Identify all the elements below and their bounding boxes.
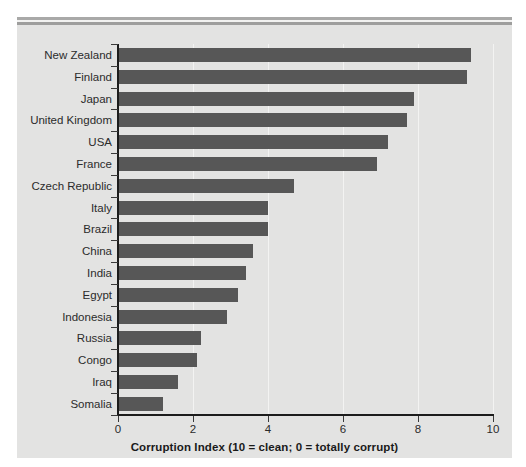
bar — [118, 310, 227, 324]
category-label: Japan — [0, 92, 112, 106]
x-axis-line — [117, 414, 494, 416]
y-axis-tick — [111, 284, 118, 285]
y-axis-tick — [111, 240, 118, 241]
bar — [118, 331, 201, 345]
x-axis-tick — [118, 416, 119, 422]
bar — [118, 353, 197, 367]
gridline — [493, 44, 494, 415]
y-axis-line — [117, 44, 119, 416]
x-axis-tick — [193, 416, 194, 422]
x-axis-tick-label: 0 — [98, 423, 138, 435]
x-axis-tick — [268, 416, 269, 422]
bar — [118, 92, 414, 106]
bar — [118, 375, 178, 389]
category-label: Somalia — [0, 397, 112, 411]
y-axis-tick — [111, 415, 118, 416]
bar — [118, 288, 238, 302]
category-labels: New ZealandFinlandJapanUnited KingdomUSA… — [0, 44, 112, 415]
y-axis-tick — [111, 327, 118, 328]
category-label: India — [0, 266, 112, 280]
x-axis-tick — [418, 416, 419, 422]
x-axis-tick — [493, 416, 494, 422]
category-label: Finland — [0, 70, 112, 84]
category-label: Czech Republic — [0, 179, 112, 193]
y-axis-tick — [111, 175, 118, 176]
bar — [118, 157, 377, 171]
category-label: Russia — [0, 331, 112, 345]
y-axis-tick — [111, 393, 118, 394]
category-label: Indonesia — [0, 310, 112, 324]
y-axis-tick — [111, 218, 118, 219]
x-axis-tick — [343, 416, 344, 422]
y-axis-tick — [111, 262, 118, 263]
category-label: Brazil — [0, 222, 112, 236]
category-label: Congo — [0, 353, 112, 367]
plot-area — [118, 44, 493, 415]
category-label: China — [0, 244, 112, 258]
bar — [118, 135, 388, 149]
x-axis-tick-label: 6 — [323, 423, 363, 435]
bar — [118, 70, 467, 84]
y-axis-tick — [111, 88, 118, 89]
y-axis-tick — [111, 371, 118, 372]
y-axis-tick — [111, 66, 118, 67]
decorative-rule-bottom — [17, 22, 512, 25]
bar — [118, 48, 471, 62]
corruption-index-chart-figure: New ZealandFinlandJapanUnited KingdomUSA… — [0, 0, 526, 467]
y-axis-tick — [111, 153, 118, 154]
category-label: USA — [0, 135, 112, 149]
x-axis-tick-label: 4 — [248, 423, 288, 435]
category-label: United Kingdom — [0, 113, 112, 127]
bar — [118, 201, 268, 215]
x-axis-title: Corruption Index (10 = clean; 0 = totall… — [17, 441, 512, 453]
x-axis-tick-label: 10 — [473, 423, 513, 435]
category-label: New Zealand — [0, 48, 112, 62]
category-label: France — [0, 157, 112, 171]
x-axis-tick-label: 2 — [173, 423, 213, 435]
x-axis-tick-label: 8 — [398, 423, 438, 435]
bar — [118, 397, 163, 411]
y-axis-tick — [111, 306, 118, 307]
bar — [118, 113, 407, 127]
y-axis-tick — [111, 349, 118, 350]
y-axis-tick — [111, 131, 118, 132]
y-axis-tick — [111, 44, 118, 45]
category-label: Italy — [0, 201, 112, 215]
y-axis-tick — [111, 197, 118, 198]
bar — [118, 266, 246, 280]
bar — [118, 179, 294, 193]
bar — [118, 244, 253, 258]
category-label: Iraq — [0, 375, 112, 389]
category-label: Egypt — [0, 288, 112, 302]
bar — [118, 222, 268, 236]
y-axis-tick — [111, 109, 118, 110]
gridline — [418, 44, 419, 415]
